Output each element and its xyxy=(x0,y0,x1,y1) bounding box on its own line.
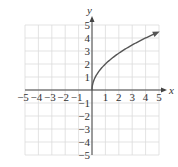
y-tick-label: 1 xyxy=(85,71,91,83)
x-tick-label: 1 xyxy=(103,91,109,103)
x-tick-label: −5 xyxy=(17,91,29,103)
x-tick-label: 4 xyxy=(143,91,149,103)
x-axis-arrow-icon xyxy=(161,88,167,93)
y-tick-label: 5 xyxy=(85,19,91,31)
x-tick-label: 3 xyxy=(129,91,135,103)
y-tick-label: 3 xyxy=(85,45,91,57)
x-tick-label: −3 xyxy=(44,91,56,103)
function-graph: −5−4−3−2−11234554321−1−2−3−4−5 x y xyxy=(0,0,178,167)
x-tick-label: 2 xyxy=(116,91,122,103)
curve-line xyxy=(92,33,157,90)
y-tick-label: 2 xyxy=(85,58,91,70)
x-tick-label: −4 xyxy=(31,91,43,103)
y-tick-label: −2 xyxy=(78,110,90,122)
y-tick-label: −3 xyxy=(78,123,90,135)
y-axis-label: y xyxy=(86,4,92,16)
x-tick-label: −2 xyxy=(57,91,69,103)
x-axis-label: x xyxy=(168,84,174,96)
y-tick-label: 4 xyxy=(85,32,91,44)
y-tick-label: −4 xyxy=(78,136,90,148)
y-tick-label: −5 xyxy=(78,149,90,161)
y-tick-label: −1 xyxy=(78,97,90,109)
y-axis-arrow-icon xyxy=(90,16,95,22)
x-tick-label: 5 xyxy=(156,91,162,103)
